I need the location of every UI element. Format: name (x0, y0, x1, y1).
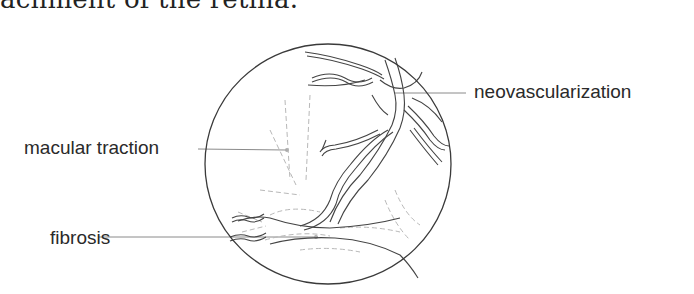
retinal-vessels (230, 52, 449, 278)
leader-lines (98, 93, 466, 237)
label-fibrosis: fibrosis (50, 228, 110, 247)
label-neovascularization: neovascularization (474, 82, 631, 101)
leader-macular-traction (198, 149, 286, 150)
fibrosis-point (314, 235, 318, 239)
label-macular-traction: macular traction (24, 138, 159, 157)
